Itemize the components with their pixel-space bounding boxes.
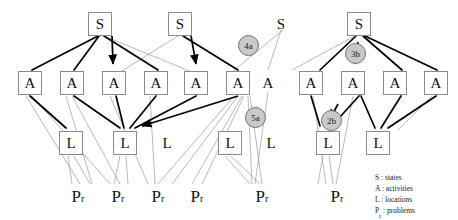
activity-node-a7[interactable]: A	[256, 71, 280, 95]
activity-node-label: A	[25, 76, 36, 91]
location-node-l7[interactable]: L	[366, 131, 390, 155]
annotation-badge-5a[interactable]: 5a	[245, 107, 266, 128]
problem-node-label: P	[191, 188, 200, 205]
location-node-label: L	[225, 136, 234, 151]
problem-node-p2[interactable]: Pr	[104, 186, 132, 206]
location-node-label: L	[66, 136, 75, 151]
activity-node-label: A	[233, 76, 244, 91]
state-node-label: S	[355, 17, 363, 32]
problem-node-subscript: r	[265, 194, 268, 204]
problem-node-label: P	[256, 188, 265, 205]
problem-node-subscript: r	[81, 194, 84, 204]
activity-node-a8[interactable]: A	[299, 71, 323, 95]
activity-node-a9[interactable]: A	[341, 71, 365, 95]
annotation-badge-4a[interactable]: 4a	[238, 35, 259, 56]
activity-node-label: A	[431, 76, 442, 91]
state-node-s3[interactable]: S	[269, 12, 293, 36]
location-node-l1[interactable]: L	[59, 131, 83, 155]
activity-node-a3[interactable]: A	[102, 71, 126, 95]
activity-node-a1[interactable]: A	[18, 71, 42, 95]
location-node-l5[interactable]: L	[259, 131, 283, 155]
problem-node-subscript: r	[161, 194, 164, 204]
activity-node-label: A	[348, 76, 359, 91]
location-node-label: L	[162, 136, 171, 151]
problem-node-p4[interactable]: Pr	[183, 186, 211, 206]
activity-node-label: A	[263, 76, 274, 91]
location-node-label: L	[323, 136, 332, 151]
activity-node-label: A	[67, 76, 78, 91]
activity-node-label: A	[306, 76, 317, 91]
activity-node-label: A	[191, 76, 202, 91]
legend-row-locations: L : locations	[375, 194, 415, 205]
activity-node-a5[interactable]: A	[184, 71, 208, 95]
location-node-l4[interactable]: L	[218, 131, 242, 155]
diagram-canvas: S S S S A A A A A A A A A A A L L L L L …	[0, 0, 458, 220]
activity-node-a11[interactable]: A	[424, 71, 448, 95]
activity-node-label: A	[151, 76, 162, 91]
legend: S : states A : activities L : locations …	[375, 172, 415, 220]
location-node-label: L	[266, 136, 275, 151]
problem-node-label: P	[112, 188, 121, 205]
legend-row-activities: A : activities	[375, 183, 415, 194]
problem-node-subscript: r	[121, 194, 124, 204]
state-node-s2[interactable]: S	[168, 12, 192, 36]
legend-row-states: S : states	[375, 172, 415, 183]
problem-node-p1[interactable]: Pr	[64, 186, 92, 206]
annotation-badge-label: 4a	[244, 41, 253, 51]
problem-node-label: P	[152, 188, 161, 205]
problem-node-subscript: r	[340, 194, 343, 204]
problem-node-p6[interactable]: Pr	[323, 186, 351, 206]
problem-node-p5[interactable]: Pr	[248, 186, 276, 206]
location-node-l3[interactable]: L	[155, 131, 179, 155]
legend-row-problems: Pr : problems	[375, 205, 415, 220]
activity-node-a4[interactable]: A	[144, 71, 168, 95]
location-node-label: L	[373, 136, 382, 151]
location-node-l2[interactable]: L	[113, 131, 137, 155]
activity-node-a10[interactable]: A	[383, 71, 407, 95]
problem-node-p3[interactable]: Pr	[144, 186, 172, 206]
activity-node-label: A	[109, 76, 120, 91]
activity-node-a6[interactable]: A	[226, 71, 250, 95]
annotation-badge-label: 2b	[327, 116, 336, 126]
annotation-badge-2b[interactable]: 2b	[321, 110, 342, 131]
activity-node-a2[interactable]: A	[60, 71, 84, 95]
problem-node-label: P	[331, 188, 340, 205]
location-node-label: L	[120, 136, 129, 151]
problem-node-label: P	[72, 188, 81, 205]
state-node-label: S	[96, 17, 104, 32]
state-node-label: S	[176, 17, 184, 32]
state-node-label: S	[277, 17, 285, 32]
state-node-s1[interactable]: S	[88, 12, 112, 36]
location-node-l6[interactable]: L	[316, 131, 340, 155]
legend-problem-value: : problems	[381, 206, 415, 215]
legend-problem-subscript: r	[379, 213, 381, 219]
activity-node-label: A	[390, 76, 401, 91]
problem-node-subscript: r	[200, 194, 203, 204]
state-node-s4[interactable]: S	[347, 12, 371, 36]
annotation-badge-label: 5a	[251, 113, 260, 123]
annotation-badge-3b[interactable]: 3b	[345, 43, 366, 64]
annotation-badge-label: 3b	[351, 49, 360, 59]
